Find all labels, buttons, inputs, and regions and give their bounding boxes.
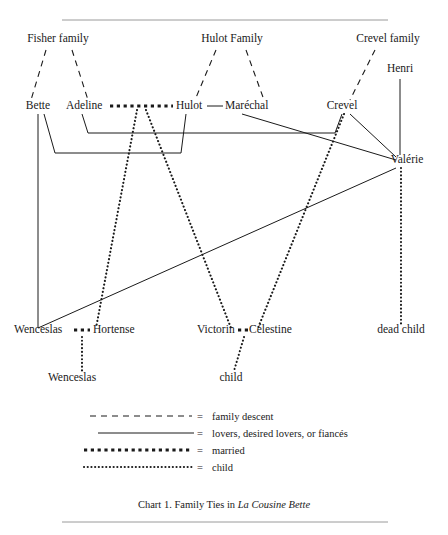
node-crevel_family: Crevel family	[356, 32, 420, 45]
legend-equals-lovers: =	[197, 428, 203, 439]
node-valerie: Valérie	[391, 153, 424, 165]
edge-fisher-to-adeline	[72, 50, 88, 100]
edge-adeline-hulot-to-hortense	[96, 110, 137, 328]
chart-canvas: Fisher familyHulot FamilyCrevel familyHe…	[0, 0, 448, 535]
edge-hulot-family-to-hulot	[195, 50, 216, 100]
chart-legend: =family descent=lovers, desired lovers, …	[84, 411, 348, 473]
legend-entry-family-descent: =family descent	[90, 411, 274, 422]
caption-prefix: Chart 1. Family Ties in	[138, 499, 238, 510]
node-wenceslas_jr: Wenceslas	[48, 371, 97, 383]
legend-label-child: child	[212, 462, 234, 473]
edge-adeline-hulot-to-victorin	[146, 110, 231, 328]
node-celestine: Célestine	[249, 323, 292, 335]
edge-wenceslas-valerie-lovers	[38, 168, 396, 328]
legend-label-married: married	[212, 445, 245, 456]
node-crevel: Crevel	[327, 99, 358, 111]
node-victorin: Victorin	[197, 323, 235, 335]
legend-label-family-descent: family descent	[212, 411, 274, 422]
legend-equals-child: =	[197, 462, 203, 473]
node-hulot: Hulot	[176, 99, 203, 111]
node-fisher_family: Fisher family	[27, 32, 89, 45]
edge-adeline-crevel-lovers	[82, 114, 342, 133]
legend-entry-married: =married	[84, 445, 245, 456]
edge-victorin-celestine-to-child	[234, 337, 244, 371]
legend-equals-married: =	[197, 445, 203, 456]
edge-marechal-valerie-lovers	[242, 114, 396, 160]
node-dead_child: dead child	[377, 323, 425, 335]
caption-work-title: La Cousine Bette	[237, 499, 311, 510]
edge-hulot-family-to-marechal	[246, 50, 264, 100]
edge-crevel-valerie-lovers	[350, 114, 396, 157]
legend-equals-family-descent: =	[197, 411, 203, 422]
node-wenceslas_sr: Wenceslas	[14, 323, 63, 335]
node-marechal: Maréchal	[225, 99, 268, 111]
edge-crevel-to-celestine	[258, 114, 344, 328]
node-hulot_family: Hulot Family	[201, 32, 263, 45]
family-tree-chart: Fisher familyHulot FamilyCrevel familyHe…	[0, 0, 448, 535]
node-henri: Henri	[387, 62, 413, 74]
node-hortense: Hortense	[93, 323, 135, 335]
legend-entry-child: =child	[84, 462, 234, 473]
chart-caption: Chart 1. Family Ties in La Cousine Bette	[138, 499, 310, 510]
node-bette: Bette	[26, 99, 50, 111]
node-child: child	[220, 371, 243, 383]
legend-label-lovers: lovers, desired lovers, or fiancés	[212, 428, 348, 439]
node-adeline: Adeline	[66, 99, 102, 111]
edge-crevel-family-to-crevel	[350, 50, 375, 100]
legend-entry-lovers: =lovers, desired lovers, or fiancés	[98, 428, 348, 439]
edge-fisher-to-bette	[31, 50, 46, 100]
